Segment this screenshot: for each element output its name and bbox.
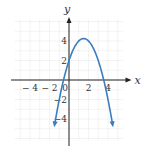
- parabola-chart: xy − 4− 202442−2−4: [0, 0, 141, 146]
- x-tick-label: − 4: [22, 83, 38, 93]
- axes: xy: [11, 3, 141, 146]
- x-axis-label: x: [135, 74, 141, 87]
- y-axis-label: y: [63, 3, 71, 16]
- x-tick-label: − 2: [41, 83, 57, 93]
- curve-arrow-icon: [109, 121, 114, 127]
- y-tick-label: 2: [61, 56, 67, 66]
- x-tick-label: 2: [86, 83, 92, 93]
- curve-arrow-icon: [53, 121, 58, 127]
- parabola-curve: [55, 39, 113, 124]
- y-axis-arrow-icon: [67, 17, 72, 23]
- x-axis-arrow-icon: [126, 78, 132, 83]
- y-tick-label: 4: [61, 36, 67, 46]
